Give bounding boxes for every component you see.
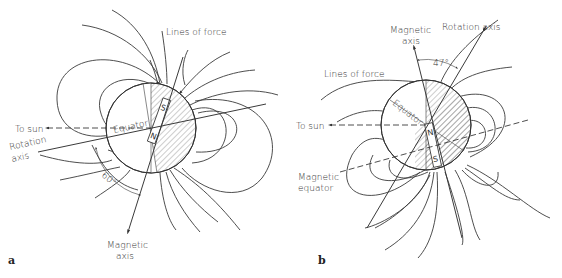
rotation-axis-label-b: Rotation axis — [442, 22, 501, 32]
angle-label-a: 60° — [100, 170, 119, 188]
to-sun-label-a: To sun — [15, 124, 43, 134]
panel-label-a: a — [8, 254, 15, 267]
rotation-axis-label-a-2: axis — [10, 150, 30, 164]
magnetic-equator-label-b-2: equator — [298, 183, 334, 193]
lines-of-force-label-b: Lines of force — [324, 69, 385, 79]
panel-label-b: b — [318, 254, 326, 267]
magnetic-equator-label-b: Magnetic — [298, 172, 339, 182]
angle-label-b: 47° — [433, 58, 449, 68]
panel-a: S N Lines of force To sun Equator Rotati… — [8, 10, 278, 267]
magnetic-axis-label-b: Magnetic — [390, 25, 431, 35]
lines-of-force-label-a: Lines of force — [166, 27, 227, 37]
magnetic-axis-label-b-2: axis — [402, 36, 420, 46]
to-sun-label-b: To sun — [296, 121, 324, 131]
panel-b: N S Magnetic axis Rotation axis 47° Line… — [296, 20, 550, 267]
rotation-axis-label-a: Rotation — [8, 134, 47, 152]
magnetic-axis-label-a: Magnetic — [107, 240, 148, 250]
magnetic-field-figure: S N Lines of force To sun Equator Rotati… — [0, 0, 562, 278]
magnetic-axis-label-a-2: axis — [116, 251, 134, 261]
